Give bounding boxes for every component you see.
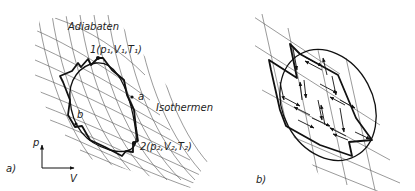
path-a-marker [130,95,133,98]
cycle-ellipse [261,33,395,178]
path-b-marker [74,122,77,125]
v-axis-label: V [70,173,78,184]
panel-b-grid [254,14,407,191]
panel-b-label: b) [256,174,266,185]
adiabats-label: Adiabaten [67,21,119,32]
p-axis-label: p [32,137,39,148]
state-1-point [96,56,100,60]
isotherms-label: Isothermen [156,102,213,113]
panel-a-label: a) [6,163,16,174]
panel-b: b) [254,14,407,191]
path-a-label: a [138,91,144,102]
pv-axes [42,145,74,168]
adiabat-lines [38,15,215,180]
state-2-label: 2(p₂,V₂,T₂) [140,141,192,152]
state-2-point [132,141,136,145]
state-1-label: 1(p₁,V₁,T₁) [90,44,142,55]
path-b-label: b [77,109,83,120]
panel-a: Adiabaten 1(p₁,V₁,T₁) a Isothermen b 2(p… [6,15,215,191]
diagram-canvas: Adiabaten 1(p₁,V₁,T₁) a Isothermen b 2(p… [0,0,415,191]
